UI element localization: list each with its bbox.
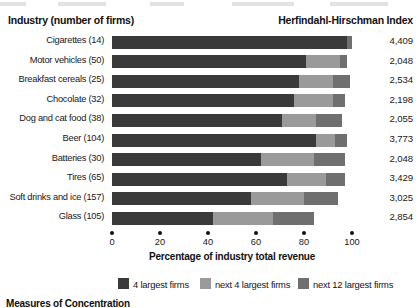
bar-segment — [213, 212, 273, 225]
bar-segment — [333, 75, 350, 88]
chart-row: Batteries (30)2,048 — [0, 151, 418, 171]
hhi-value: 3,429 — [389, 172, 413, 183]
stacked-bar — [112, 114, 352, 127]
axis-tick-label: 100 — [344, 237, 360, 247]
hhi-value: 2,198 — [389, 94, 413, 105]
stacked-bar — [112, 192, 352, 205]
industry-label: Beer (104) — [0, 133, 104, 143]
bar-segment — [335, 134, 347, 147]
legend-swatch-icon — [118, 278, 129, 289]
axis-tick-dot — [158, 231, 162, 235]
industry-label: Soft drinks and ice (157) — [0, 192, 104, 202]
chart-row: Motor vehicles (50)2,048 — [0, 53, 418, 73]
bar-segment — [112, 173, 287, 186]
bar-segment — [299, 75, 333, 88]
hhi-value: 2,055 — [389, 113, 413, 124]
legend-item: next 4 largest firms — [200, 278, 290, 290]
axis-tick-dot — [350, 231, 354, 235]
bar-segment — [294, 94, 332, 107]
bar-segment — [273, 212, 314, 225]
industry-label: Breakfast cereals (25) — [0, 74, 104, 84]
bar-segment — [326, 173, 345, 186]
bar-segment — [306, 55, 340, 68]
bar-segment — [112, 36, 347, 49]
industry-label: Tires (65) — [0, 172, 104, 182]
x-axis: 020406080100 — [0, 229, 418, 253]
bar-segment — [112, 114, 282, 127]
chart-row: Breakfast cereals (25)2,534 — [0, 72, 418, 92]
axis-tick-dot — [110, 231, 114, 235]
hhi-value: 4,409 — [389, 35, 413, 46]
legend-item: 4 largest firms — [118, 278, 189, 290]
stacked-bar — [112, 75, 352, 88]
bar-segment — [112, 75, 299, 88]
bar-segment — [251, 192, 304, 205]
column-header-industry: Industry (number of firms) — [8, 14, 134, 26]
scan-edge-artifact — [0, 0, 418, 11]
axis-tick-dot — [254, 231, 258, 235]
chart-row: Soft drinks and ice (157)3,025 — [0, 190, 418, 210]
industry-label: Cigarettes (14) — [0, 35, 104, 45]
axis-tick-label: 60 — [251, 237, 261, 247]
stacked-bar — [112, 94, 352, 107]
legend-label: next 12 largest firms — [313, 279, 393, 290]
x-axis-title: Percentage of industry total revenue — [112, 251, 352, 262]
stacked-bar — [112, 153, 352, 166]
axis-tick-label: 20 — [155, 237, 165, 247]
hhi-value: 3,773 — [389, 133, 413, 144]
stacked-bar — [112, 173, 352, 186]
bar-segment — [287, 173, 325, 186]
bar-segment — [316, 114, 342, 127]
chart-row: Glass (105)2,854 — [0, 209, 418, 229]
legend-swatch-icon — [298, 278, 309, 289]
chart-row: Chocolate (32)2,198 — [0, 92, 418, 112]
hhi-value: 2,048 — [389, 55, 413, 66]
bar-segment — [333, 94, 345, 107]
chart-legend: 4 largest firmsnext 4 largest firmsnext … — [0, 278, 418, 292]
legend-label: 4 largest firms — [133, 279, 189, 290]
chart-header: Industry (number of firms) Herfindahl-Hi… — [0, 14, 418, 30]
chart-row: Cigarettes (14)4,409 — [0, 33, 418, 53]
bar-segment — [112, 192, 251, 205]
industry-label: Glass (105) — [0, 211, 104, 221]
axis-tick-dot — [206, 231, 210, 235]
chart-row: Tires (65)3,429 — [0, 170, 418, 190]
stacked-bar — [112, 36, 352, 49]
bar-segment — [316, 134, 335, 147]
chart-plot-area: Cigarettes (14)4,409Motor vehicles (50)2… — [0, 33, 418, 229]
chart-row: Dog and cat food (38)2,055 — [0, 111, 418, 131]
legend-swatch-icon — [200, 278, 211, 289]
bar-segment — [261, 153, 314, 166]
hhi-value: 2,048 — [389, 153, 413, 164]
bar-segment — [112, 55, 306, 68]
axis-tick-label: 0 — [109, 237, 114, 247]
hhi-value: 3,025 — [389, 192, 413, 203]
bar-segment — [347, 36, 352, 49]
stacked-bar — [112, 212, 352, 225]
industry-label: Motor vehicles (50) — [0, 55, 104, 65]
bar-segment — [112, 153, 261, 166]
column-header-hhi: Herfindahl-Hirschman Index — [278, 14, 413, 26]
industry-label: Chocolate (32) — [0, 94, 104, 104]
legend-label: next 4 largest firms — [215, 279, 290, 290]
chart-row: Beer (104)3,773 — [0, 131, 418, 151]
bar-segment — [282, 114, 316, 127]
bar-segment — [112, 212, 213, 225]
axis-tick-dot — [302, 231, 306, 235]
hhi-value: 2,854 — [389, 211, 413, 222]
bar-segment — [112, 134, 316, 147]
bar-segment — [304, 192, 338, 205]
bar-segment — [314, 153, 345, 166]
axis-tick-label: 40 — [203, 237, 213, 247]
figure-caption: Measures of Concentration — [6, 298, 130, 308]
axis-tick-label: 80 — [299, 237, 309, 247]
stacked-bar — [112, 55, 352, 68]
industry-label: Batteries (30) — [0, 153, 104, 163]
bar-segment — [340, 55, 347, 68]
bar-segment — [112, 94, 294, 107]
industry-label: Dog and cat food (38) — [0, 113, 104, 123]
legend-item: next 12 largest firms — [298, 278, 393, 290]
stacked-bar — [112, 134, 352, 147]
hhi-value: 2,534 — [389, 74, 413, 85]
